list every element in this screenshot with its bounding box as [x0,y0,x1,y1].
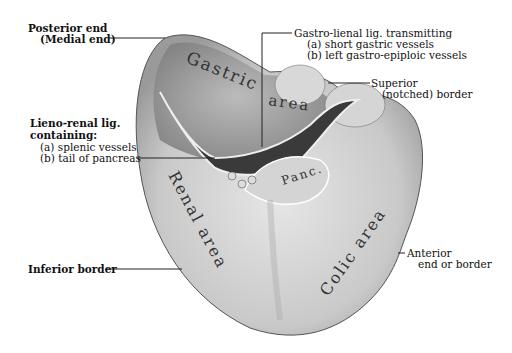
lieno-renal-label: Lieno-renal lig. [30,117,120,129]
spleen-diagram: Gastric area Renal area Colic area Panc.… [0,0,512,353]
gastro-lienal-b-label: (b) left gastro-epiploic vessels [307,49,467,61]
superior-border-label-2: (notched) border [382,88,472,100]
inferior-border-label: Inferior border [28,263,117,275]
medial-end-label: (Medial end) [40,33,116,45]
anterior-end-label-2: end or border [418,258,492,270]
lieno-renal-label-2: containing: [30,129,97,141]
lieno-renal-b-label: (b) tail of pancreas [40,152,141,164]
